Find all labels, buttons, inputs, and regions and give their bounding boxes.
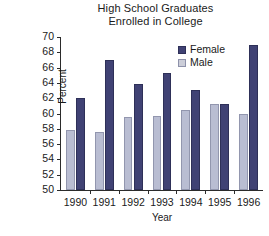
legend-label-female: Female — [190, 43, 225, 56]
x-axis-tick-mark — [148, 190, 149, 194]
x-axis-tick-label: 1992 — [121, 196, 144, 208]
x-axis-tick-label: 1993 — [150, 196, 173, 208]
y-axis-tick-mark — [57, 190, 61, 191]
bar-female — [220, 104, 229, 190]
y-axis-tick-label: 64 — [42, 76, 54, 89]
x-axis-tick-mark — [176, 190, 177, 194]
x-axis-tick-label: 1995 — [208, 196, 231, 208]
y-axis-tick-label: 66 — [42, 61, 54, 74]
y-axis-tick-label: 52 — [42, 168, 54, 181]
x-axis-tick-label: 1994 — [179, 196, 202, 208]
bar-group — [119, 37, 148, 190]
legend-swatch-female-icon — [178, 46, 186, 54]
bar-female — [105, 60, 114, 190]
bar-male — [181, 110, 190, 190]
legend-entry-male: Male — [178, 56, 225, 69]
y-axis-tick-label: 70 — [42, 30, 54, 43]
bar-male — [239, 114, 248, 190]
chart-legend: Female Male — [178, 43, 225, 69]
chart-title-line-1: High School Graduates — [42, 2, 269, 15]
bar-female — [191, 90, 200, 190]
bar-female — [163, 73, 172, 190]
legend-swatch-male-icon — [178, 59, 186, 67]
y-axis-tick-label: 56 — [42, 137, 54, 150]
bar-male — [95, 132, 104, 190]
bar-female — [76, 98, 85, 190]
x-axis-tick-label: 1990 — [64, 196, 87, 208]
bar-female — [134, 84, 143, 190]
bar-male — [210, 104, 219, 190]
y-axis-tick-label: 62 — [42, 91, 54, 104]
x-axis-tick-label: 1996 — [237, 196, 260, 208]
bar-chart-figure: High School Graduates Enrolled in Colleg… — [0, 0, 269, 236]
bar-group — [148, 37, 177, 190]
x-axis-tick-mark — [119, 190, 120, 194]
x-axis-tick-mark — [234, 190, 235, 194]
bar-group — [234, 37, 263, 190]
bar-group — [61, 37, 90, 190]
y-axis-tick-label: 58 — [42, 122, 54, 135]
y-axis-tick-label: 54 — [42, 152, 54, 165]
chart-title-line-2: Enrolled in College — [42, 15, 269, 28]
chart-title: High School Graduates Enrolled in Colleg… — [42, 2, 269, 28]
y-axis-tick-label: 68 — [42, 45, 54, 58]
x-axis-tick-mark — [90, 190, 91, 194]
legend-label-male: Male — [190, 56, 213, 69]
plot-area: Percent 7068666462605856545250 199019911… — [60, 37, 263, 191]
y-axis-tick-label: 50 — [42, 183, 54, 196]
x-axis-tick-mark — [205, 190, 206, 194]
y-axis-tick-label: 60 — [42, 107, 54, 120]
bars-layer — [61, 37, 263, 190]
x-axis-tick-label: 1991 — [93, 196, 116, 208]
bar-male — [153, 116, 162, 190]
bar-male — [66, 130, 75, 190]
bar-group — [90, 37, 119, 190]
legend-entry-female: Female — [178, 43, 225, 56]
bar-female — [249, 45, 258, 190]
x-axis-title: Year — [61, 212, 263, 223]
bar-male — [124, 117, 133, 190]
